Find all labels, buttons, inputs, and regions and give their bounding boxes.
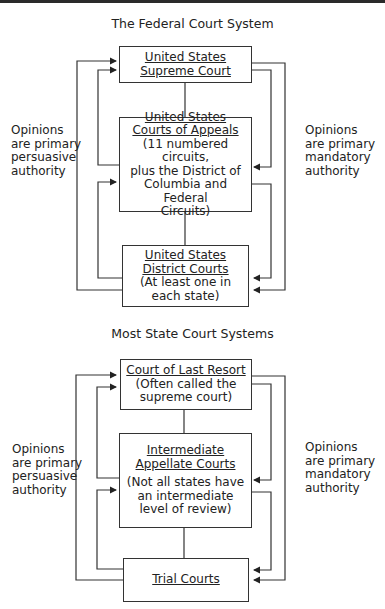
intermediate-note-3: level of review) <box>120 503 251 517</box>
last-resort-label: Court of Last Resort <box>121 364 251 378</box>
trial-label: Trial Courts <box>124 573 248 587</box>
supreme-court-label-2: Supreme Court <box>120 65 251 79</box>
appeals-note: (11 numbered circuits, <box>120 138 251 165</box>
trial-courts-box: Trial Courts <box>123 558 249 602</box>
state-persuasive-label: Opinions are primary persuasive authorit… <box>12 443 82 497</box>
last-resort-note: (Often called the <box>121 378 251 392</box>
supreme-court-box: United States Supreme Court <box>119 46 252 83</box>
district-courts-box: United States District Courts (At least … <box>122 245 249 307</box>
appeals-label-2: Courts of Appeals <box>120 124 251 138</box>
supreme-court-label: United States <box>120 51 251 65</box>
intermediate-note-2: an intermediate <box>120 490 251 504</box>
district-note-2: each state) <box>123 290 248 304</box>
court-of-last-resort-box: Court of Last Resort (Often called the s… <box>120 359 252 410</box>
appeals-note-4: Circuits) <box>120 205 251 219</box>
appeals-note-3: Columbia and Federal <box>120 178 251 205</box>
last-resort-note-2: supreme court) <box>121 391 251 405</box>
intermediate-label: Intermediate <box>120 444 251 458</box>
intermediate-note: (Not all states have <box>120 476 251 490</box>
state-mandatory-label: Opinions are primary mandatory authority <box>305 441 375 495</box>
district-label-2: District Courts <box>123 263 248 277</box>
federal-persuasive-label: Opinions are primary persuasive authorit… <box>11 124 81 178</box>
courts-of-appeals-box: United States Courts of Appeals (11 numb… <box>119 117 252 212</box>
appeals-note-2: plus the District of <box>120 165 251 179</box>
appeals-label: United States <box>120 111 251 125</box>
district-note: (At least one in <box>123 276 248 290</box>
federal-mandatory-label: Opinions are primary mandatory authority <box>305 124 375 178</box>
federal-title: The Federal Court System <box>0 16 385 31</box>
intermediate-appellate-box: Intermediate Appellate Courts (Not all s… <box>119 433 252 528</box>
district-label: United States <box>123 249 248 263</box>
state-title: Most State Court Systems <box>0 326 385 341</box>
intermediate-label-2: Appellate Courts <box>120 458 251 472</box>
